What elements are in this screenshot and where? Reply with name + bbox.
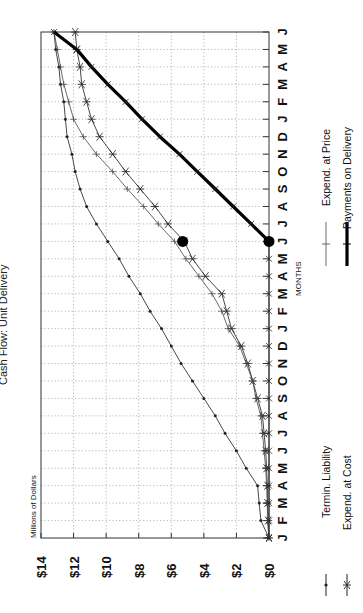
month-tick-label: J — [275, 534, 290, 541]
month-tick-label: M — [275, 288, 290, 299]
legend-label: Expend. at Price — [320, 129, 332, 206]
legend-item-expend-at-price: Expend. at Price — [320, 129, 332, 266]
dollar-tick-label: $10 — [99, 556, 114, 578]
month-tick-label: A — [275, 411, 290, 421]
grid — [41, 32, 269, 538]
month-tick-label: F — [275, 307, 290, 315]
month-tick-label: M — [275, 79, 290, 90]
legend-label: Termin. Liability — [320, 445, 332, 518]
month-tick-label: J — [275, 220, 290, 227]
month-tick-label: M — [275, 253, 290, 264]
plot-frame — [41, 32, 269, 538]
series-lines — [51, 28, 275, 542]
month-tick-label: J — [275, 238, 290, 245]
large-dot-marker — [177, 236, 188, 247]
dollar-tick-label: $8 — [132, 564, 147, 578]
dollar-tick-label: $6 — [164, 564, 179, 578]
legend-label: Payments on Delivery — [341, 126, 353, 229]
cash-flow-chart: Cash Flow: Unit Delivery Millions of Dol… — [0, 0, 363, 613]
month-tick-label: M — [275, 498, 290, 509]
dollar-tick-label: $0 — [262, 564, 277, 578]
y-axis-title: Millions of Dollars — [29, 475, 38, 538]
month-tick-label: A — [275, 271, 290, 281]
chart-title: Cash Flow: Unit Delivery — [0, 264, 9, 385]
x-axis-title: MONTHS — [294, 261, 303, 296]
month-tick-label: A — [275, 62, 290, 72]
month-tick-label: O — [275, 167, 290, 177]
dollar-tick-label: $14 — [34, 556, 49, 578]
month-tick-label: N — [275, 149, 290, 158]
legend-item-payments-on-delivery: Payments on Delivery — [341, 126, 353, 266]
month-tick-label: A — [275, 480, 290, 490]
month-tick-label: M — [275, 44, 290, 55]
month-tick-label: F — [275, 517, 290, 525]
month-tick-label: J — [275, 430, 290, 437]
dollar-axis-ticks: $0$2$4$6$8$10$12$14 — [34, 533, 277, 578]
month-axis-ticks: JFMAMJJASONDJFMAMJJASONDJFMAMJ — [263, 28, 290, 541]
month-tick-label: N — [275, 359, 290, 368]
dollar-tick-label: $2 — [229, 564, 244, 578]
month-tick-label: S — [275, 394, 290, 403]
month-tick-label: J — [275, 447, 290, 454]
month-tick-label: D — [275, 132, 290, 141]
month-tick-label: J — [275, 28, 290, 35]
month-tick-label: O — [275, 376, 290, 386]
month-tick-label: M — [275, 463, 290, 474]
dollar-tick-label: $4 — [197, 563, 212, 578]
large-dot-marker — [264, 236, 275, 247]
month-tick-label: S — [275, 184, 290, 193]
month-tick-label: J — [275, 116, 290, 123]
legend-item-termin-liability: Termin. Liability — [320, 445, 332, 596]
month-tick-label: A — [275, 201, 290, 211]
legend: Termin. Liability Expend. at Cost Expend… — [320, 126, 353, 596]
month-tick-label: J — [275, 325, 290, 332]
month-tick-label: D — [275, 341, 290, 350]
legend-item-expend-at-cost: Expend. at Cost — [341, 455, 353, 596]
legend-label: Expend. at Cost — [341, 455, 353, 530]
dollar-tick-label: $12 — [67, 556, 82, 578]
month-tick-label: F — [275, 98, 290, 106]
